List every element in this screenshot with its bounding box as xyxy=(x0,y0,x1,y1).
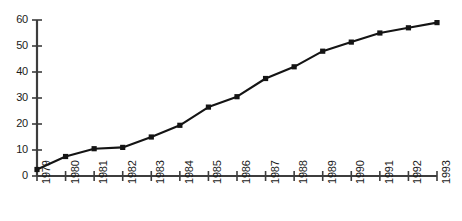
data-point-marker xyxy=(206,105,211,110)
x-axis-tick-label: 1984 xyxy=(184,160,195,184)
x-axis-tick-label: 1991 xyxy=(384,160,395,184)
x-axis-tick-label: 1985 xyxy=(212,160,223,184)
x-axis-tick-label: 1980 xyxy=(70,160,81,184)
data-point-marker xyxy=(320,49,325,54)
plot-area xyxy=(0,0,462,221)
x-axis-tick-label: 1987 xyxy=(270,160,281,184)
x-axis-tick-label: 1986 xyxy=(241,160,252,184)
x-axis-tick-label: 1989 xyxy=(327,160,338,184)
y-axis-tick-label: 60 xyxy=(6,14,28,25)
data-point-marker xyxy=(92,146,97,151)
data-point-marker xyxy=(34,167,39,172)
data-point-marker xyxy=(234,94,239,99)
data-series xyxy=(34,20,439,172)
x-axis-tick-label: 1990 xyxy=(355,160,366,184)
y-axis-tick-label: 50 xyxy=(6,40,28,51)
data-point-marker xyxy=(406,25,411,30)
line-chart: 0102030405060 19791980198119821983198419… xyxy=(0,0,462,221)
x-axis-tick-label: 1981 xyxy=(98,160,109,184)
x-axis-tick-label: 1993 xyxy=(441,160,452,184)
data-point-marker xyxy=(349,40,354,45)
data-point-marker xyxy=(434,20,439,25)
y-axis-tick-label: 40 xyxy=(6,66,28,77)
x-axis-tick-label: 1992 xyxy=(412,160,423,184)
x-axis-tick-label: 1983 xyxy=(155,160,166,184)
data-point-marker xyxy=(63,154,68,159)
data-point-marker xyxy=(263,76,268,81)
y-axis-tick-label: 20 xyxy=(6,118,28,129)
x-axis-tick-label: 1982 xyxy=(127,160,138,184)
axes xyxy=(32,20,437,181)
y-axis-tick-label: 0 xyxy=(6,170,28,181)
data-point-marker xyxy=(292,64,297,69)
y-axis-tick-label: 10 xyxy=(6,144,28,155)
data-point-marker xyxy=(120,145,125,150)
data-point-marker xyxy=(377,30,382,35)
data-point-marker xyxy=(177,123,182,128)
data-point-marker xyxy=(149,134,154,139)
x-axis-tick-label: 1988 xyxy=(298,160,309,184)
y-axis-tick-label: 30 xyxy=(6,92,28,103)
x-axis-tick-label: 1979 xyxy=(41,160,52,184)
